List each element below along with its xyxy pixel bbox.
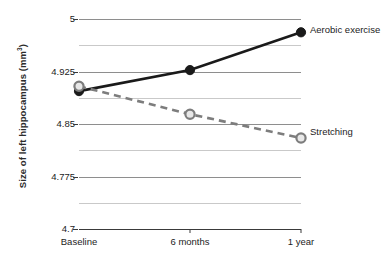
y-axis-tick-mark bbox=[73, 177, 78, 178]
x-axis-tick-mark bbox=[301, 229, 302, 233]
y-axis-tick-label: 4.85 bbox=[29, 119, 75, 129]
data-point-marker bbox=[185, 66, 194, 75]
series-layer bbox=[79, 19, 301, 229]
y-axis-tick-label: 4.775 bbox=[29, 172, 75, 182]
x-axis-tick-mark bbox=[190, 229, 191, 233]
series-label-aerobic-exercise: Aerobic exercise bbox=[310, 24, 380, 35]
data-point-marker bbox=[74, 82, 83, 91]
x-axis-tick-label: Baseline bbox=[61, 236, 97, 247]
y-axis-tick-mark bbox=[73, 229, 78, 230]
data-point-marker bbox=[296, 133, 305, 142]
data-point-marker bbox=[185, 110, 194, 119]
y-axis-tick-mark bbox=[73, 124, 78, 125]
data-point-marker bbox=[296, 28, 305, 37]
y-axis-tick-mark bbox=[73, 19, 78, 20]
y-axis-tick-labels: 54.9254.854.7754.7 bbox=[20, 0, 75, 264]
y-axis-tick-mark bbox=[73, 72, 78, 73]
y-axis-tick-label: 5 bbox=[29, 14, 75, 24]
series-line bbox=[79, 32, 301, 91]
y-axis-tick-label: 4.925 bbox=[29, 67, 75, 77]
series-label-stretching: Stretching bbox=[310, 126, 353, 137]
y-axis-tick-label: 4.7 bbox=[29, 224, 75, 234]
chart-figure: Size of left hippocampus (mm3) 54.9254.8… bbox=[0, 0, 389, 264]
plot-area bbox=[79, 19, 301, 229]
x-axis-tick-label: 6 months bbox=[170, 236, 209, 247]
x-axis-tick-label: 1 year bbox=[288, 236, 314, 247]
